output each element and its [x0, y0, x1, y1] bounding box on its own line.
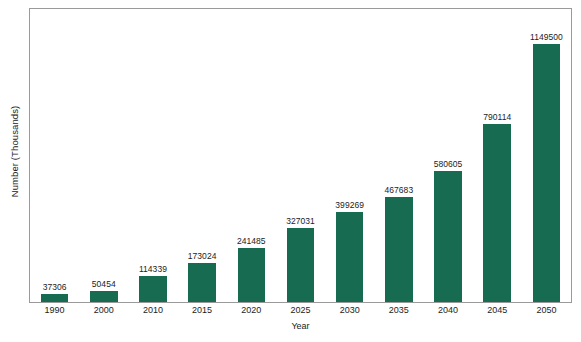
bar-rect-2010 [139, 276, 167, 302]
bar-2045: 790114 [483, 9, 511, 302]
bar-rect-2040 [434, 171, 462, 302]
bar-value-label-1990: 37306 [43, 282, 67, 292]
bar-2015: 173024 [188, 9, 216, 302]
bar-value-label-2010: 114339 [139, 264, 167, 274]
bar-2035: 467683 [385, 9, 413, 302]
x-tick-label-2050: 2050 [522, 305, 571, 315]
bar-value-label-2045: 790114 [483, 112, 511, 122]
x-axis-title: Year [30, 321, 571, 331]
x-tick-label-2040: 2040 [423, 305, 472, 315]
bar-value-label-2015: 173024 [188, 251, 217, 261]
x-tick-label-2020: 2020 [227, 305, 276, 315]
bar-rect-2050 [533, 44, 561, 302]
bar-2040: 580605 [434, 9, 462, 302]
bar-rect-2000 [90, 291, 118, 302]
bar-value-label-2035: 467683 [385, 185, 414, 195]
x-tick-label-1990: 1990 [30, 305, 79, 315]
bar-rect-2025 [287, 228, 315, 302]
bar-value-label-2000: 50454 [92, 279, 116, 289]
bars-layer: 3730650454114339173024241485327031399269… [30, 9, 571, 302]
bar-2050: 1149500 [533, 9, 561, 302]
x-tick-label-2025: 2025 [276, 305, 325, 315]
bar-value-label-2020: 241485 [237, 236, 266, 246]
bar-value-label-2050: 1149500 [530, 32, 563, 42]
y-axis-title: Number (Thousands) [0, 0, 29, 303]
bar-value-label-2040: 580605 [434, 159, 463, 169]
bar-rect-2020 [238, 248, 266, 302]
bar-2000: 50454 [90, 9, 118, 302]
bar-value-label-2025: 327031 [286, 216, 315, 226]
bar-2025: 327031 [287, 9, 315, 302]
bar-value-label-2030: 399269 [335, 200, 364, 210]
x-tick-label-2045: 2045 [473, 305, 522, 315]
x-tick-label-2030: 2030 [325, 305, 374, 315]
bar-2030: 399269 [336, 9, 364, 302]
bar-2020: 241485 [238, 9, 266, 302]
x-tick-label-2015: 2015 [178, 305, 227, 315]
bar-1990: 37306 [41, 9, 69, 302]
bar-rect-2035 [385, 197, 413, 302]
bar-rect-1990 [41, 294, 69, 302]
bar-rect-2045 [483, 124, 511, 302]
y-axis-title-text: Number (Thousands) [9, 106, 20, 198]
x-axis-tick-labels: 1990200020102015202020252030203520402045… [30, 305, 571, 321]
bar-2010: 114339 [139, 9, 167, 302]
bar-rect-2015 [188, 263, 216, 302]
x-tick-label-2035: 2035 [374, 305, 423, 315]
bar-rect-2030 [336, 212, 364, 302]
bar-chart: Number (Thousands) 373065045411433917302… [0, 0, 581, 342]
x-tick-label-2010: 2010 [128, 305, 177, 315]
x-tick-label-2000: 2000 [79, 305, 128, 315]
